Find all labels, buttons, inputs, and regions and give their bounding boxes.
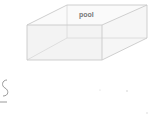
speck: [99, 89, 100, 90]
pool-label: pool: [79, 11, 94, 19]
cropped-glyph: [3, 80, 8, 96]
box-front-face: [27, 25, 102, 60]
speck: [146, 112, 147, 113]
pool-box-diagram: pool: [0, 0, 151, 117]
speck: [126, 90, 128, 92]
